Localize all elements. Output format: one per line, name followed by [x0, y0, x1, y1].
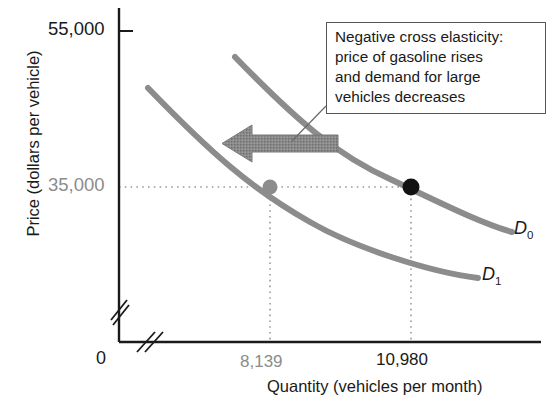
curve-label-d1-subscript: 1 [495, 275, 501, 287]
demand-curve-d1 [148, 88, 478, 278]
y-axis-title: Price (dollars per vehicle) [24, 19, 43, 269]
x-axis-title: Quantity (vehicles per month) [267, 377, 483, 396]
curve-label-d1: D1 [482, 264, 501, 287]
annotation-callout-box: Negative cross elasticity: price of gaso… [326, 22, 546, 114]
marker-d0-point [403, 179, 420, 196]
curve-label-d0-letter: D [514, 218, 527, 238]
marker-d1-point [263, 180, 278, 195]
demand-curve-figure: Price (dollars per vehicle) Quantity (ve… [0, 0, 558, 410]
curve-label-d0: D0 [514, 218, 533, 241]
y-tick-label-55000: 55,000 [48, 18, 105, 40]
demand-shift-arrow [222, 125, 338, 162]
x-tick-label-8139: 8,139 [240, 352, 283, 372]
annotation-text: Negative cross elasticity: price of gaso… [335, 27, 538, 107]
y-tick-label-35000: 35,000 [48, 174, 105, 196]
origin-label: 0 [96, 348, 106, 369]
x-tick-label-10980: 10,980 [376, 350, 428, 370]
curve-label-d0-subscript: 0 [527, 229, 533, 241]
curve-label-d1-letter: D [482, 264, 495, 284]
